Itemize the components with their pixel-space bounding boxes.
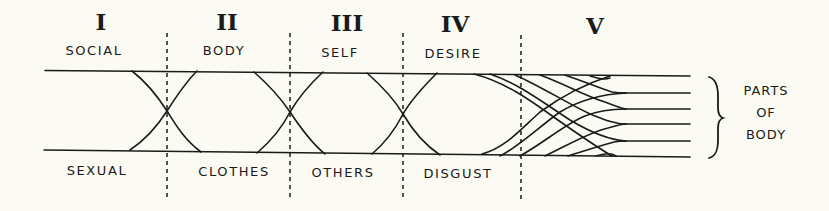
bottom-label-disgust: DISGUST xyxy=(423,166,492,181)
top-label-body: BODY xyxy=(203,43,246,58)
parts-of-body-line-1: PARTS xyxy=(731,80,801,102)
crossing-curve xyxy=(372,73,437,154)
fan-curve xyxy=(568,141,626,156)
bottom-label-clothes: CLOTHES xyxy=(198,164,269,179)
bottom-label-sexual: SEXUAL xyxy=(67,163,128,178)
top-label-social: SOCIAL xyxy=(65,43,122,58)
top-label-self: SELF xyxy=(321,45,359,60)
bottom-label-others: OTHERS xyxy=(311,165,374,180)
top-label-desire: DESIRE xyxy=(424,46,481,61)
section-numeral-1: I xyxy=(96,8,107,35)
fan-curve xyxy=(515,75,626,124)
parts-of-body-line-3: BODY xyxy=(731,124,801,146)
section-numeral-3: III xyxy=(331,9,363,36)
opposites-band-diagram xyxy=(0,0,829,211)
bottom-band-line xyxy=(44,150,690,157)
section-numeral-5: V xyxy=(586,12,604,39)
section-numeral-4: IV xyxy=(441,10,470,37)
section-numeral-2: II xyxy=(216,8,238,35)
parts-of-body-line-2: OF xyxy=(731,102,801,124)
parts-of-body-label: PARTS OF BODY xyxy=(731,80,801,146)
curly-brace xyxy=(709,77,723,158)
